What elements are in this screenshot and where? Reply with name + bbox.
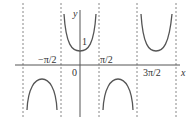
tick-label-zero: 0: [72, 67, 77, 78]
curve-upper-right: [141, 14, 172, 51]
secant-graph: y x 1 −π/2 0 π/2 3π/2: [0, 0, 190, 117]
curve-lower-left: [27, 79, 57, 110]
curve-lower-right: [103, 79, 133, 110]
tick-label-neg-pi-2: −π/2: [38, 54, 56, 65]
x-axis-label: x: [180, 67, 186, 78]
tick-label-3pi-2: 3π/2: [143, 67, 161, 78]
y-axis-label: y: [72, 8, 78, 19]
tick-label-pi-2: π/2: [100, 54, 113, 65]
tick-label-one: 1: [82, 36, 87, 47]
